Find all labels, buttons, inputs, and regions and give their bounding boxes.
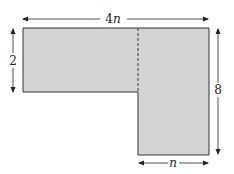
- l-shape-diagram: 4n 2 8 n: [0, 0, 234, 174]
- top-width-label: 4n: [105, 12, 120, 26]
- bottom-width-label: n: [169, 156, 177, 170]
- bottom-dimension: n: [139, 156, 208, 170]
- left-dimension: 2: [9, 29, 17, 92]
- left-height-label: 2: [9, 54, 17, 68]
- right-dimension: 8: [214, 29, 222, 154]
- right-height-label: 8: [214, 83, 222, 97]
- top-dimension: 4n: [23, 12, 208, 26]
- l-shape: [23, 28, 209, 155]
